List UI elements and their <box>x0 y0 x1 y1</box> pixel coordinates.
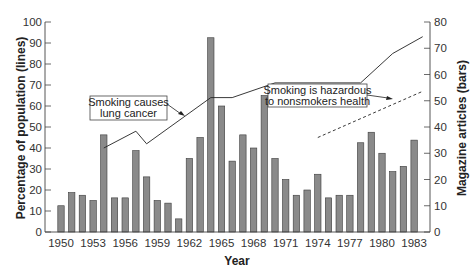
y-right-tick-label: 20 <box>434 174 447 186</box>
bar <box>379 153 385 232</box>
y-right-tick-label: 70 <box>434 42 447 54</box>
y-axis-left-title: Percentage of population (lines) <box>14 37 28 220</box>
bar <box>133 151 139 232</box>
annotation-lung-cancer: Smoking causes lung cancer <box>88 96 185 120</box>
y-right-tick-label: 30 <box>434 147 447 159</box>
bar <box>368 132 374 232</box>
y-right-tick-label: 50 <box>434 95 447 107</box>
x-tick-label: 1950 <box>48 237 74 249</box>
x-tick-label: 1968 <box>241 237 267 249</box>
x-axis-title: Year <box>224 254 250 268</box>
bar <box>261 96 267 233</box>
bar <box>143 177 149 232</box>
bar <box>283 180 289 233</box>
bar <box>218 106 224 232</box>
y-left-tick-label: 30 <box>29 163 42 175</box>
y-right-tick-label: 0 <box>434 226 440 238</box>
bar-series-magazine-articles <box>58 38 418 232</box>
bar <box>197 138 203 233</box>
bar <box>90 201 96 233</box>
y-left-tick-label: 40 <box>29 142 42 154</box>
x-tick-label: 1965 <box>209 237 235 249</box>
y-left-tick-label: 100 <box>23 16 42 28</box>
bar <box>390 172 396 232</box>
x-tick-label: 1959 <box>145 237 171 249</box>
annotation-lung-cancer-line2: lung cancer <box>100 107 157 119</box>
bar <box>357 143 363 232</box>
bar <box>176 219 182 232</box>
bar <box>101 135 107 232</box>
y-left-tick-label: 70 <box>29 79 42 91</box>
y-left-tick-label: 80 <box>29 58 42 70</box>
bar <box>325 198 331 232</box>
x-tick-label: 1977 <box>337 237 363 249</box>
annotation-nonsmokers-line2: to nonsmokers health <box>265 95 370 107</box>
chart: 0102030405060708090100010203040506070801… <box>0 0 476 274</box>
bar <box>58 206 64 232</box>
y-right-tick-label: 40 <box>434 121 447 133</box>
bar <box>79 195 85 232</box>
bar <box>111 198 117 232</box>
y-left-tick-label: 60 <box>29 100 42 112</box>
bar <box>122 198 128 232</box>
bar <box>347 195 353 232</box>
bar <box>186 159 192 233</box>
x-tick-label: 1956 <box>112 237 138 249</box>
bar <box>336 195 342 232</box>
bar <box>315 174 321 232</box>
bar <box>272 159 278 233</box>
bar <box>250 148 256 232</box>
y-axis-right-title: Magazine articles (bars) <box>455 60 469 196</box>
bar <box>411 140 417 232</box>
arrowhead-icon <box>386 96 393 100</box>
x-tick-label: 1953 <box>80 237 106 249</box>
bar <box>154 201 160 233</box>
y-left-tick-label: 50 <box>29 121 42 133</box>
bar <box>304 190 310 232</box>
y-left-tick-label: 90 <box>29 37 42 49</box>
y-left-tick-label: 10 <box>29 205 42 217</box>
bar <box>293 195 299 232</box>
bar <box>208 38 214 232</box>
bar <box>240 135 246 232</box>
x-tick-label: 1980 <box>369 237 395 249</box>
annotation-nonsmokers: Smoking is hazardous to nonsmokers healt… <box>263 84 393 107</box>
y-left-tick-label: 20 <box>29 184 42 196</box>
x-tick-label: 1983 <box>401 237 427 249</box>
arrowhead-icon <box>178 111 185 116</box>
bar <box>229 161 235 232</box>
y-right-tick-label: 10 <box>434 200 447 212</box>
y-left-tick-label: 0 <box>36 226 42 238</box>
y-right-tick-label: 80 <box>434 16 447 28</box>
bar <box>400 166 406 232</box>
x-tick-label: 1971 <box>273 237 299 249</box>
bar <box>165 203 171 232</box>
x-tick-label: 1974 <box>305 237 331 249</box>
y-right-tick-label: 60 <box>434 69 447 81</box>
x-tick-label: 1962 <box>177 237 203 249</box>
bar <box>69 193 75 232</box>
